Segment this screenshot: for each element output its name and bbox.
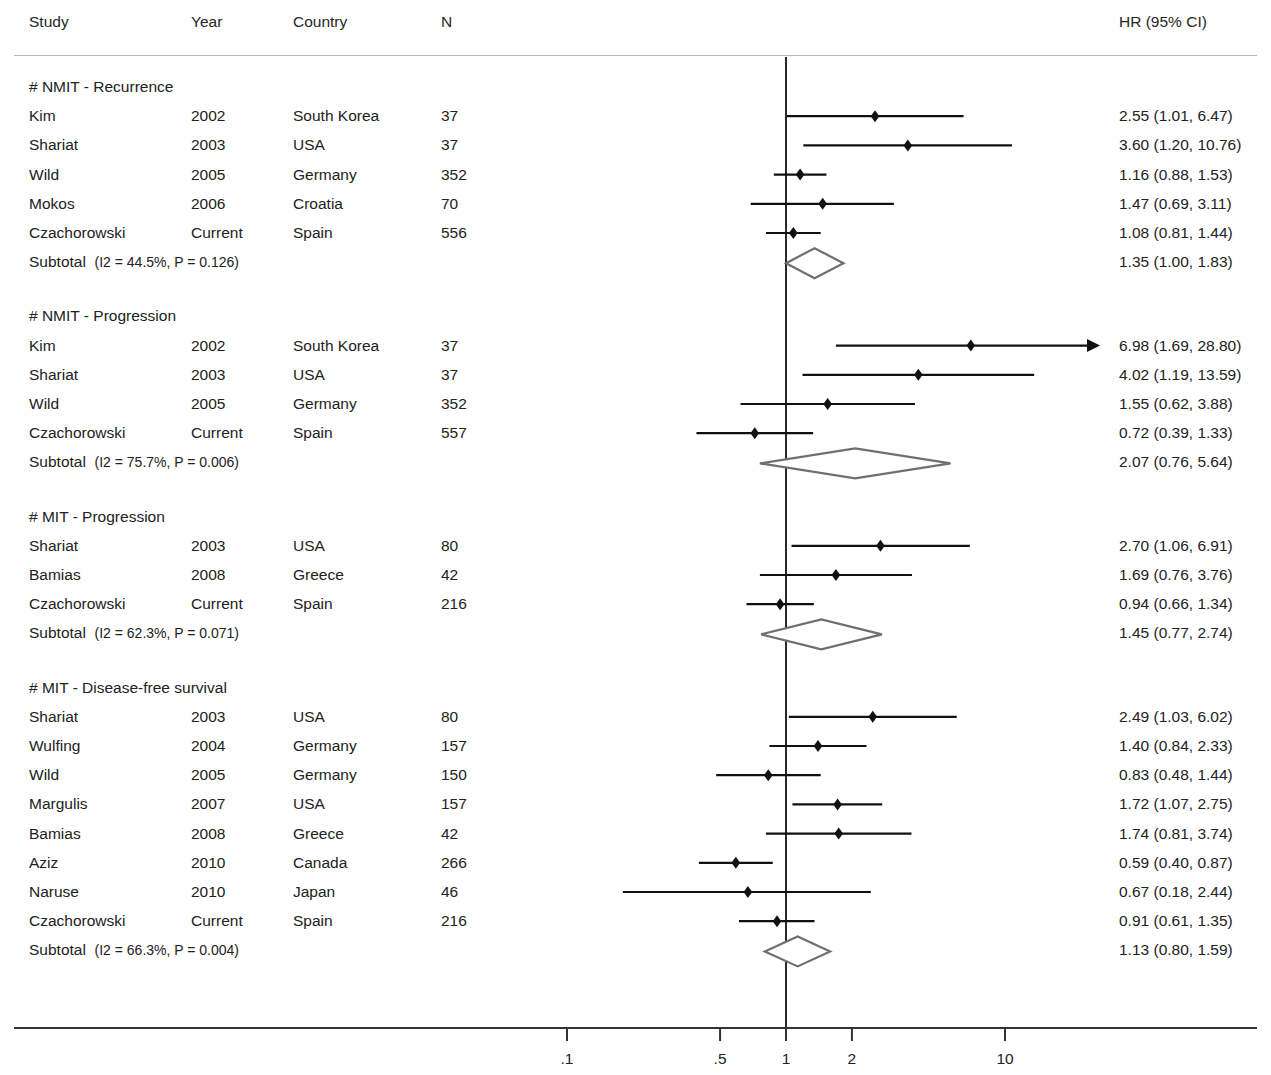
row-hr-value: 1.16 (0.88, 1.53) — [1119, 167, 1233, 183]
row-year: 2003 — [191, 137, 225, 153]
forest-plot-page: Study Year Country N HR (95% CI) # NMIT … — [0, 0, 1271, 1075]
row-n: 216 — [441, 596, 467, 612]
x-axis-tick-label: 2 — [848, 1050, 857, 1068]
row-n: 46 — [441, 884, 458, 900]
row-hr-value: 2.55 (1.01, 6.47) — [1119, 108, 1233, 124]
row-hr-value: 4.02 (1.19, 13.59) — [1119, 367, 1241, 383]
row-hr-value: 1.74 (0.81, 3.74) — [1119, 826, 1233, 842]
point-estimate-marker — [832, 569, 841, 581]
row-country: South Korea — [293, 338, 379, 354]
row-year: 2008 — [191, 567, 225, 583]
row-country: Spain — [293, 596, 333, 612]
row-study: Czachorowski — [29, 596, 125, 612]
row-study: Mokos — [29, 196, 75, 212]
row-n: 80 — [441, 709, 458, 725]
row-n: 157 — [441, 738, 467, 754]
row-hr-value: 0.91 (0.61, 1.35) — [1119, 913, 1233, 929]
row-study: Wild — [29, 396, 59, 412]
row-year: Current — [191, 425, 243, 441]
row-hr-value: 0.83 (0.48, 1.44) — [1119, 767, 1233, 783]
point-estimate-marker — [834, 828, 843, 840]
row-study: Czachorowski — [29, 913, 125, 929]
row-year: 2005 — [191, 167, 225, 183]
point-estimate-marker — [744, 886, 753, 898]
row-country: Spain — [293, 225, 333, 241]
row-n: 266 — [441, 855, 467, 871]
point-estimate-marker — [914, 369, 923, 381]
subtotal-label: Subtotal (I2 = 62.3%, P = 0.071) — [29, 625, 239, 641]
subtotal-hr-value: 1.45 (0.77, 2.74) — [1119, 625, 1233, 641]
subtotal-label: Subtotal (I2 = 75.7%, P = 0.006) — [29, 454, 239, 470]
row-hr-value: 1.55 (0.62, 3.88) — [1119, 396, 1233, 412]
row-country: Germany — [293, 767, 357, 783]
row-n: 70 — [441, 196, 458, 212]
row-n: 216 — [441, 913, 467, 929]
row-year: 2003 — [191, 367, 225, 383]
header-divider — [14, 55, 1257, 56]
row-study: Naruse — [29, 884, 79, 900]
x-axis-tick-label: 1 — [782, 1050, 791, 1068]
row-n: 157 — [441, 796, 467, 812]
row-year: 2003 — [191, 709, 225, 725]
row-study: Shariat — [29, 709, 78, 725]
row-country: USA — [293, 709, 325, 725]
row-study: Margulis — [29, 796, 88, 812]
point-estimate-marker — [833, 798, 842, 810]
column-header-hr: HR (95% CI) — [1119, 14, 1207, 30]
row-hr-value: 6.98 (1.69, 28.80) — [1119, 338, 1241, 354]
row-hr-value: 3.60 (1.20, 10.76) — [1119, 137, 1241, 153]
row-study: Bamias — [29, 567, 81, 583]
subtotal-hr-value: 1.35 (1.00, 1.83) — [1119, 254, 1233, 270]
row-country: Canada — [293, 855, 347, 871]
row-country: Japan — [293, 884, 335, 900]
row-n: 37 — [441, 137, 458, 153]
point-estimate-marker — [904, 139, 913, 151]
row-study: Shariat — [29, 137, 78, 153]
group-label-0: # NMIT - Recurrence — [29, 79, 173, 95]
row-n: 37 — [441, 108, 458, 124]
row-country: Greece — [293, 567, 344, 583]
row-n: 556 — [441, 225, 467, 241]
row-hr-value: 0.59 (0.40, 0.87) — [1119, 855, 1233, 871]
row-study: Wild — [29, 167, 59, 183]
x-axis-tick-label: 10 — [996, 1050, 1013, 1068]
row-study: Czachorowski — [29, 225, 125, 241]
row-n: 352 — [441, 167, 467, 183]
row-country: Germany — [293, 167, 357, 183]
row-year: 2002 — [191, 338, 225, 354]
row-year: Current — [191, 225, 243, 241]
column-header-year: Year — [191, 14, 222, 30]
row-study: Wulfing — [29, 738, 80, 754]
row-n: 80 — [441, 538, 458, 554]
row-country: USA — [293, 796, 325, 812]
row-study: Bamias — [29, 826, 81, 842]
row-year: 2010 — [191, 884, 225, 900]
column-header-study: Study — [29, 14, 69, 30]
row-n: 42 — [441, 567, 458, 583]
row-n: 37 — [441, 338, 458, 354]
row-hr-value: 1.40 (0.84, 2.33) — [1119, 738, 1233, 754]
row-n: 150 — [441, 767, 467, 783]
row-year: 2004 — [191, 738, 225, 754]
group-label-3: # MIT - Disease-free survival — [29, 680, 227, 696]
row-study: Wild — [29, 767, 59, 783]
row-study: Shariat — [29, 538, 78, 554]
point-estimate-marker — [966, 340, 975, 352]
row-hr-value: 2.70 (1.06, 6.91) — [1119, 538, 1233, 554]
subtotal-diamond — [760, 448, 951, 478]
row-study: Aziz — [29, 855, 58, 871]
x-axis-tick-label: .5 — [714, 1050, 727, 1068]
point-estimate-marker — [731, 857, 740, 869]
row-country: Croatia — [293, 196, 343, 212]
row-year: Current — [191, 913, 243, 929]
row-hr-value: 0.72 (0.39, 1.33) — [1119, 425, 1233, 441]
point-estimate-marker — [789, 227, 798, 239]
group-label-1: # NMIT - Progression — [29, 308, 176, 324]
row-hr-value: 1.47 (0.69, 3.11) — [1119, 196, 1232, 212]
point-estimate-marker — [871, 110, 880, 122]
row-country: Spain — [293, 425, 333, 441]
subtotal-diamond — [761, 619, 882, 649]
row-country: Germany — [293, 738, 357, 754]
row-country: USA — [293, 367, 325, 383]
point-estimate-marker — [796, 169, 805, 181]
